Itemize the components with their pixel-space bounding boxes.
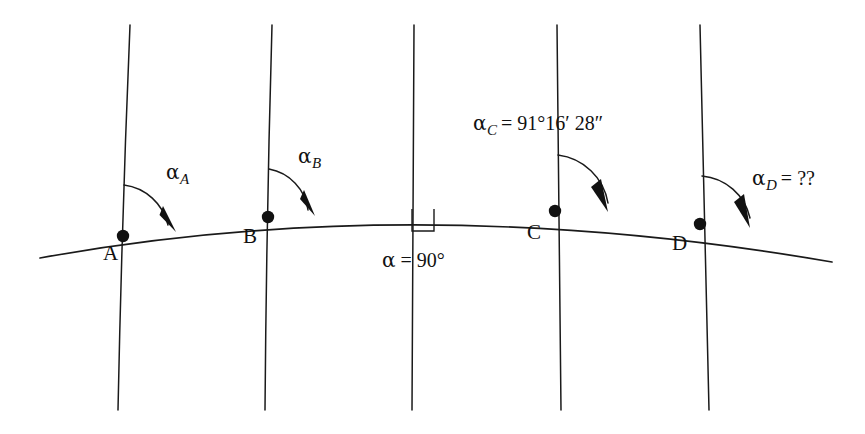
meridian-5 xyxy=(700,25,709,410)
geodesy-diagram: A B C D αA αB αC= 91°16′ 28″ αD= ?? α= 9… xyxy=(0,0,865,434)
meridian-lines xyxy=(118,25,709,410)
meridian-1 xyxy=(118,25,130,410)
right-angle-label: α= 90° xyxy=(382,250,445,270)
angle-label-alpha-C: αC= 91°16′ 28″ xyxy=(473,113,603,138)
greek-alpha-C: α xyxy=(473,111,487,135)
point-label-D: D xyxy=(672,233,687,254)
angle-label-alpha-B: αB xyxy=(298,146,321,171)
greek-alpha-B: α xyxy=(298,144,312,168)
point-dot-B xyxy=(262,211,274,223)
right-angle-marker xyxy=(412,209,434,231)
subscript-D: D xyxy=(766,177,777,193)
angle-arc-alpha-C xyxy=(558,155,608,212)
subscript-C: C xyxy=(487,122,498,138)
angle-arc-alpha-B xyxy=(269,169,315,216)
greek-alpha-D: α xyxy=(752,166,766,190)
meridian-4 xyxy=(557,25,561,410)
angle-label-alpha-A: αA xyxy=(166,162,189,187)
angle-value-D: = ?? xyxy=(777,167,815,189)
subscript-B: B xyxy=(312,155,322,171)
angle-label-alpha-D: αD= ?? xyxy=(752,168,815,193)
point-label-A: A xyxy=(103,243,118,264)
greek-alpha-A: α xyxy=(166,160,180,184)
point-label-C: C xyxy=(527,222,541,243)
point-dot-C xyxy=(549,205,561,217)
right-angle-value: = 90° xyxy=(396,249,445,271)
diagram-canvas xyxy=(0,0,865,434)
angle-value-C: = 91°16′ 28″ xyxy=(497,112,603,134)
angle-arc-alpha-A xyxy=(124,185,176,232)
point-label-B: B xyxy=(243,226,257,247)
greek-alpha-90: α xyxy=(382,248,396,272)
angle-arc-alpha-D xyxy=(702,176,750,228)
subscript-A: A xyxy=(180,171,190,187)
point-dot-D xyxy=(694,218,706,230)
point-dot-A xyxy=(117,230,129,242)
